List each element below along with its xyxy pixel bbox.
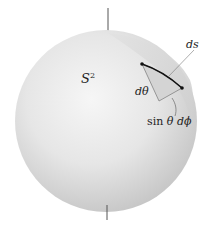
dphi-text: dϕ [177, 115, 192, 128]
sphere-label-base: S [81, 71, 90, 86]
sin-text: sin [147, 115, 163, 128]
theta-text: θ [167, 115, 174, 128]
dtheta-label: dθ [135, 85, 149, 98]
arc-endpoint-2 [180, 86, 184, 90]
sphere-label-exponent: 2 [90, 71, 95, 80]
ds-label: ds [186, 38, 199, 51]
sin-theta-dphi-label: sin θ dϕ [147, 115, 191, 128]
arc-endpoint-1 [140, 62, 144, 66]
sphere-label: S2 [81, 71, 95, 86]
